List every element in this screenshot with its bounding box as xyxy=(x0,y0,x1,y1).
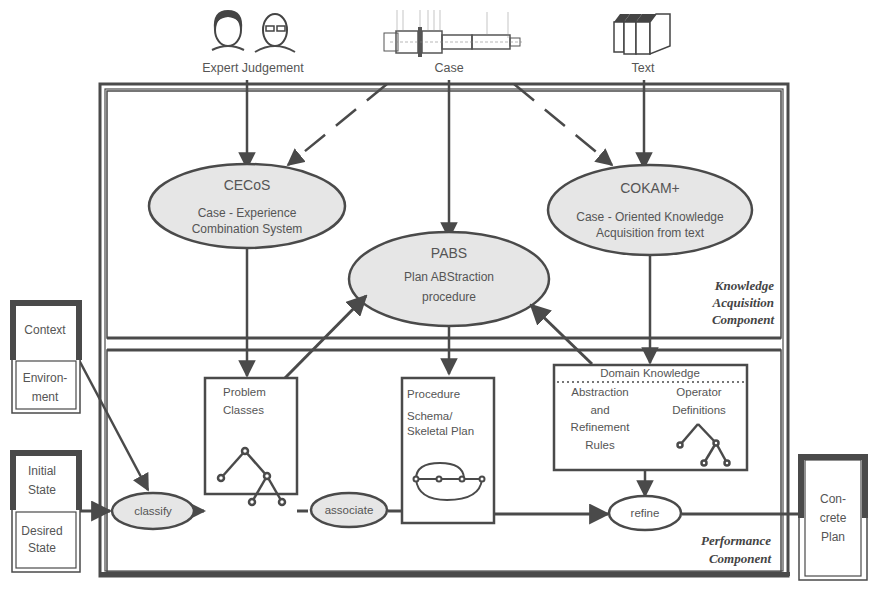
svg-text:Component: Component xyxy=(709,551,772,566)
concrete-plan-line-1: Con- xyxy=(820,492,846,506)
context-environment-box[interactable]: Context Environ- ment xyxy=(12,302,80,413)
associate-process[interactable]: associate xyxy=(311,493,387,527)
dk-left-line-4: Rules xyxy=(585,439,615,451)
dk-left-line-3: Refinement xyxy=(571,421,631,433)
pabs-node[interactable]: PABS Plan ABStraction procedure xyxy=(349,232,549,326)
text-label: Text xyxy=(632,61,655,75)
domain-knowledge-title: Domain Knowledge xyxy=(600,367,700,379)
refine-process[interactable]: refine xyxy=(609,496,681,530)
cokam-title: COKAM+ xyxy=(620,180,680,196)
procedure-line-2: Schema/ xyxy=(407,410,453,422)
people-portraits-icon xyxy=(212,10,295,52)
books-icon xyxy=(614,14,670,54)
pabs-title: PABS xyxy=(431,245,467,261)
cecos-title: CECoS xyxy=(224,177,271,193)
procedure-schema-box[interactable]: Procedure Schema/ Skeletal Plan xyxy=(402,378,494,523)
diagram-canvas: Expert Judgement Case Text xyxy=(0,0,873,592)
svg-text:Performance: Performance xyxy=(701,533,771,548)
concrete-plan-line-3: Plan xyxy=(821,530,845,544)
problem-classes-box[interactable]: Problem Classes xyxy=(205,378,297,505)
svg-text:Acquisition: Acquisition xyxy=(712,295,774,310)
svg-text:Knowledge: Knowledge xyxy=(714,278,774,293)
cokam-line-1: Case - Oriented Knowledge xyxy=(576,210,724,224)
environment-line-2: ment xyxy=(32,390,59,404)
dk-left-line-1: Abstraction xyxy=(571,386,629,398)
knowledge-acquisition-title: Knowledge Acquisition Component xyxy=(712,278,775,327)
expert-judgement-label: Expert Judgement xyxy=(202,61,304,75)
procedure-line-1: Procedure xyxy=(407,388,460,400)
desired-state-line-1: Desired xyxy=(21,524,62,538)
initial-state-line-2: State xyxy=(28,483,56,497)
procedure-line-3: Skeletal Plan xyxy=(407,425,474,437)
cokam-line-2: Acquisition from text xyxy=(596,226,705,240)
cokam-node[interactable]: COKAM+ Case - Oriented Knowledge Acquisi… xyxy=(548,165,752,255)
dk-left-line-2: and xyxy=(590,404,609,416)
pabs-line-1: Plan ABStraction xyxy=(404,270,494,284)
dk-right-line-2: Definitions xyxy=(672,404,726,416)
performance-title: Performance Component xyxy=(701,533,771,566)
mechanical-shaft-drawing-icon xyxy=(384,10,522,57)
state-box[interactable]: Initial State Desired State xyxy=(12,452,80,572)
desired-state-line-2: State xyxy=(28,541,56,555)
classify-label: classify xyxy=(134,505,172,517)
context-label: Context xyxy=(24,323,66,337)
cecos-line-2: Combination System xyxy=(192,222,303,236)
cecos-line-1: Case - Experience xyxy=(198,206,297,220)
concrete-plan-line-2: crete xyxy=(820,511,847,525)
concrete-plan-box[interactable]: Con- crete Plan xyxy=(799,455,867,580)
dk-right-line-1: Operator xyxy=(676,386,722,398)
svg-text:Component: Component xyxy=(712,312,775,327)
environment-line-1: Environ- xyxy=(23,371,68,385)
case-label: Case xyxy=(434,61,463,75)
associate-label: associate xyxy=(325,504,374,516)
problem-classes-line-2: Classes xyxy=(223,404,264,416)
domain-knowledge-box[interactable]: Domain Knowledge Abstraction and Refinem… xyxy=(554,365,747,470)
pabs-line-2: procedure xyxy=(422,290,476,304)
classify-process[interactable]: classify xyxy=(112,493,194,529)
refine-label: refine xyxy=(631,507,660,519)
problem-classes-line-1: Problem xyxy=(223,386,266,398)
cecos-node[interactable]: CECoS Case - Experience Combination Syst… xyxy=(149,164,345,248)
initial-state-line-1: Initial xyxy=(28,464,56,478)
